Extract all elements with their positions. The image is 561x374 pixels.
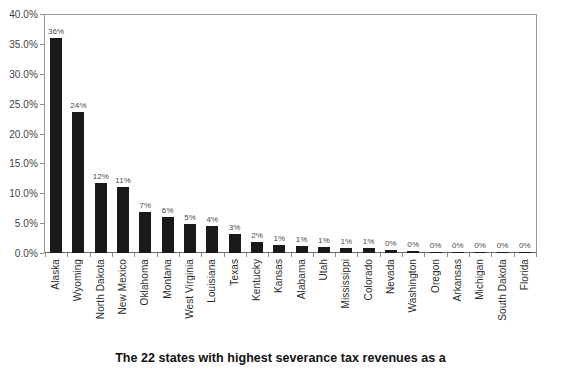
x-axis-tick-label: Colorado (363, 259, 374, 300)
x-axis-tick-mark (402, 253, 403, 257)
bar-value-label: 36% (48, 27, 64, 36)
x-axis-tick-label: Mississippi (340, 259, 351, 308)
x-axis-tick-mark (224, 253, 225, 257)
bar (50, 38, 62, 253)
bar-group: 36% (45, 14, 67, 253)
bar-value-label: 0% (407, 240, 419, 249)
x-axis-tick-mark (134, 253, 135, 257)
bar-group: 0% (402, 14, 424, 253)
bar-group: 7% (134, 14, 156, 253)
x-axis-tick-label: Kansas (273, 259, 284, 293)
x-axis-tick-label: New Mexico (117, 259, 128, 314)
bar-value-label: 0% (452, 241, 464, 250)
y-axis-tick-label: 20.0% (9, 128, 38, 139)
bar-value-label: 6% (162, 206, 174, 215)
severance-tax-bar-chart: 0.0%5.0%10.0%15.0%20.0%25.0%30.0%35.0%40… (0, 0, 561, 374)
x-axis-tick-mark (157, 253, 158, 257)
bar-group: 1% (291, 14, 313, 253)
y-axis-tick-marks (39, 14, 44, 253)
bar-value-label: 3% (229, 223, 241, 232)
x-axis: AlaskaWyomingNorth DakotaNew MexicoOklah… (45, 259, 536, 341)
bar-value-label: 1% (318, 236, 330, 245)
y-axis-tick-label: 15.0% (9, 158, 38, 169)
y-axis-tick-mark (40, 253, 44, 254)
bar-group: 1% (357, 14, 379, 253)
bar (273, 245, 285, 253)
x-axis-tick-label: Arkansas (452, 259, 463, 302)
bar (95, 183, 107, 253)
x-axis-tick-mark (357, 253, 358, 257)
y-axis-tick-mark (40, 74, 44, 75)
bar (206, 226, 218, 253)
bar-value-label: 7% (140, 201, 152, 210)
x-axis-tick-label: Alaska (50, 259, 61, 290)
bar-group: 5% (179, 14, 201, 253)
bar (139, 212, 151, 253)
x-axis-tick-label: Oregon (430, 259, 441, 293)
x-axis-tick-label: Kentucky (251, 259, 262, 301)
bar-value-label: 1% (363, 237, 375, 246)
y-axis-tick-mark (40, 163, 44, 164)
y-axis-tick-label: 35.0% (9, 38, 38, 49)
bar-value-label: 0% (430, 241, 442, 250)
bar-value-label: 1% (273, 234, 285, 243)
y-axis-tick-label: 25.0% (9, 98, 38, 109)
x-axis-tick-mark (514, 253, 515, 257)
bar-value-label: 0% (385, 239, 397, 248)
y-axis-tick-mark (40, 104, 44, 105)
bar-value-label: 0% (519, 241, 531, 250)
bar-value-label: 4% (206, 215, 218, 224)
x-axis-tick-mark (90, 253, 91, 257)
bar-series: 36%24%12%11%7%6%5%4%3%2%1%1%1%1%1%0%0%0%… (45, 14, 536, 253)
x-axis-tick-mark (536, 253, 537, 257)
x-axis-tick-mark (67, 253, 68, 257)
x-axis-tick-label: Louisiana (206, 259, 217, 303)
bar-group: 1% (268, 14, 290, 253)
bar-value-label: 12% (93, 172, 109, 181)
y-axis-tick-label: 30.0% (9, 68, 38, 79)
x-axis-tick-mark (447, 253, 448, 257)
x-axis-tick-label: West Virginia (184, 259, 195, 319)
y-axis-tick-mark (40, 193, 44, 194)
x-axis-tick-mark (424, 253, 425, 257)
x-axis-tick-label: Utah (318, 259, 329, 281)
bar-group: 0% (424, 14, 446, 253)
bar-group: 4% (201, 14, 223, 253)
x-axis-tick-label: Washington (407, 259, 418, 312)
x-axis-tick-mark (335, 253, 336, 257)
bar (251, 242, 263, 253)
x-axis-tick-mark (313, 253, 314, 257)
bar-group: 0% (469, 14, 491, 253)
bar (229, 234, 241, 253)
x-axis-tick-marks (45, 253, 536, 258)
y-axis: 0.0%5.0%10.0%15.0%20.0%25.0%30.0%35.0%40… (0, 14, 38, 253)
bar-value-label: 0% (474, 241, 486, 250)
x-axis-tick-mark (291, 253, 292, 257)
bar-value-label: 0% (497, 241, 509, 250)
bar (72, 112, 84, 253)
x-axis-tick-mark (268, 253, 269, 257)
y-axis-tick-label: 5.0% (15, 218, 38, 229)
y-axis-tick-label: 40.0% (9, 9, 38, 20)
bar-group: 1% (313, 14, 335, 253)
x-axis-tick-mark (201, 253, 202, 257)
bar-value-label: 1% (340, 237, 352, 246)
bar-group: 0% (380, 14, 402, 253)
x-axis-tick-mark (246, 253, 247, 257)
bar-value-label: 1% (296, 235, 308, 244)
bar-group: 1% (335, 14, 357, 253)
bar-group: 2% (246, 14, 268, 253)
bar-group: 24% (67, 14, 89, 253)
bar (296, 246, 308, 253)
bar (117, 187, 129, 253)
x-axis-tick-label: Texas (229, 259, 240, 286)
bar (162, 217, 174, 253)
x-axis-tick-mark (491, 253, 492, 257)
x-axis-tick-label: Michigan (474, 259, 485, 300)
bar-value-label: 24% (70, 101, 86, 110)
x-axis-tick-label: Montana (162, 259, 173, 299)
x-axis-tick-mark (112, 253, 113, 257)
x-axis-tick-label: Nevada (385, 259, 396, 294)
x-axis-tick-mark (179, 253, 180, 257)
x-axis-tick-mark (45, 253, 46, 257)
